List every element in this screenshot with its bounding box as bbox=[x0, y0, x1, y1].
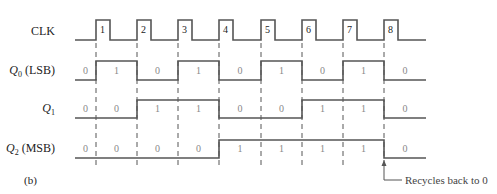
bit-value: 0 bbox=[83, 143, 88, 154]
signal-waveform bbox=[75, 140, 426, 158]
bit-value: 0 bbox=[403, 65, 408, 76]
bit-value: 1 bbox=[320, 103, 325, 114]
pulse-number: 5 bbox=[265, 24, 270, 35]
bit-value: 1 bbox=[238, 143, 243, 154]
timing-diagram: CLK12345678Q0 (LSB)010101010Q1001100110Q… bbox=[0, 0, 497, 194]
bit-value: 1 bbox=[361, 143, 366, 154]
pulse-number: 2 bbox=[141, 24, 146, 35]
recycle-annotation: Recycles back to 0 bbox=[382, 160, 489, 186]
signal-label: Q1 bbox=[42, 101, 55, 117]
bit-value: 0 bbox=[403, 143, 408, 154]
bit-value: 1 bbox=[155, 103, 160, 114]
signal-waveform bbox=[75, 100, 426, 118]
clock-signal: CLK12345678 bbox=[31, 20, 426, 40]
bit-value: 0 bbox=[196, 143, 201, 154]
signal-q1: Q1001100110 bbox=[42, 100, 426, 118]
signal-label: Q2 (MSB) bbox=[6, 141, 55, 157]
bit-value: 0 bbox=[238, 65, 243, 76]
arrow-line bbox=[384, 162, 402, 180]
annotation-text: Recycles back to 0 bbox=[405, 174, 488, 186]
pulse-number: 7 bbox=[347, 24, 352, 35]
bit-value: 1 bbox=[279, 65, 284, 76]
bit-value: 0 bbox=[155, 65, 160, 76]
clock-waveform bbox=[75, 20, 426, 40]
bit-value: 0 bbox=[279, 103, 284, 114]
pulse-number: 4 bbox=[223, 24, 228, 35]
bit-value: 0 bbox=[155, 143, 160, 154]
bit-value: 1 bbox=[114, 65, 119, 76]
signal-waveform bbox=[75, 61, 426, 80]
bit-value: 1 bbox=[361, 103, 366, 114]
pulse-number: 6 bbox=[306, 24, 311, 35]
pulse-number: 8 bbox=[388, 24, 393, 35]
arrow-head-icon bbox=[382, 160, 387, 166]
signal-q2: Q2 (MSB)000011110 bbox=[6, 140, 426, 158]
bit-value: 0 bbox=[320, 65, 325, 76]
bit-value: 0 bbox=[114, 103, 119, 114]
bit-value: 0 bbox=[83, 103, 88, 114]
bit-value: 1 bbox=[361, 65, 366, 76]
bit-value: 1 bbox=[196, 103, 201, 114]
figure-label: (b) bbox=[24, 174, 37, 187]
signal-label: Q0 (LSB) bbox=[9, 63, 55, 79]
bit-value: 1 bbox=[320, 143, 325, 154]
bit-value: 0 bbox=[403, 103, 408, 114]
pulse-number: 3 bbox=[182, 24, 187, 35]
clock-label: CLK bbox=[31, 24, 55, 38]
bit-value: 1 bbox=[196, 65, 201, 76]
bit-value: 0 bbox=[83, 65, 88, 76]
signal-q0: Q0 (LSB)010101010 bbox=[9, 61, 426, 80]
bit-value: 0 bbox=[238, 103, 243, 114]
pulse-number: 1 bbox=[100, 24, 105, 35]
bit-value: 1 bbox=[279, 143, 284, 154]
bit-value: 0 bbox=[114, 143, 119, 154]
